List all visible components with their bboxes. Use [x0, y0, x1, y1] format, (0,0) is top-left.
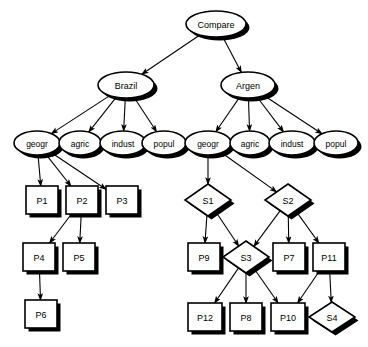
edge-argen-to-geogr_a [216, 97, 240, 131]
node-label-compare: Compare [197, 20, 234, 30]
node-label-P10: P10 [280, 313, 296, 323]
edge-S1-to-S3 [215, 211, 238, 246]
nodes-layer: CompareBrazilArgengeogragricindustpopulg… [14, 11, 358, 332]
node-P3[interactable]: P3 [106, 186, 138, 214]
node-compare[interactable]: Compare [186, 11, 246, 37]
node-S1[interactable]: S1 [185, 184, 231, 216]
node-label-indust_b: indust [112, 139, 135, 149]
edge-S1-to-P9 [205, 215, 207, 243]
node-agric_a[interactable]: agric [230, 131, 270, 155]
node-label-P4: P4 [33, 253, 44, 263]
node-geogr_b[interactable]: geogr [14, 131, 60, 155]
edge-P11-to-P10 [298, 271, 320, 303]
edge-S3-to-P10 [254, 268, 279, 303]
node-label-S3: S3 [240, 253, 251, 263]
edge-argen-to-indust_a [257, 97, 283, 132]
node-label-S4: S4 [326, 313, 337, 323]
node-label-P11: P11 [321, 253, 336, 263]
node-label-brazil: Brazil [115, 81, 138, 91]
edge-geogr_b-to-P1 [38, 155, 41, 186]
node-shadows-layer [18, 15, 362, 336]
node-S3[interactable]: S3 [223, 241, 269, 273]
edge-compare-to-argen [223, 37, 242, 73]
node-S4[interactable]: S4 [309, 302, 355, 332]
edge-geogr_b-to-P2 [46, 154, 71, 186]
node-P1[interactable]: P1 [26, 186, 58, 214]
node-label-argen: Argen [236, 81, 260, 91]
node-label-P3: P3 [116, 196, 127, 206]
node-popul_b[interactable]: popul [142, 131, 186, 155]
node-P9[interactable]: P9 [188, 243, 220, 271]
node-label-popul_a: popul [326, 139, 347, 149]
edge-P2-to-P4 [50, 214, 72, 243]
node-label-agric_a: agric [241, 139, 260, 149]
node-label-S1: S1 [202, 196, 213, 206]
node-label-P6: P6 [35, 310, 46, 320]
node-label-popul_b: popul [154, 139, 175, 149]
edge-compare-to-brazil [142, 35, 200, 74]
node-agric_b[interactable]: agric [59, 131, 101, 155]
edge-argen-to-agric_a [248, 98, 249, 131]
node-P8[interactable]: P8 [230, 303, 262, 331]
node-P2[interactable]: P2 [66, 186, 98, 214]
edge-P11-to-S4 [330, 271, 332, 302]
node-P5[interactable]: P5 [63, 243, 95, 271]
node-label-S2: S2 [282, 196, 293, 206]
edge-brazil-to-indust_b [124, 98, 126, 131]
node-P6[interactable]: P6 [25, 300, 57, 328]
node-P10[interactable]: P10 [271, 303, 305, 331]
edge-S2-to-P11 [296, 211, 319, 243]
node-brazil[interactable]: Brazil [98, 72, 154, 98]
node-label-P8: P8 [240, 313, 251, 323]
edge-geogr_a-to-S2 [222, 153, 277, 192]
edge-brazil-to-geogr_b [51, 96, 109, 134]
node-label-P9: P9 [198, 253, 209, 263]
diagram-svg: CompareBrazilArgengeogragricindustpopulg… [0, 0, 368, 347]
node-label-P2: P2 [76, 196, 87, 206]
edge-S2-to-S3 [254, 211, 280, 247]
node-label-geogr_a: geogr [197, 139, 219, 149]
diagram-canvas: CompareBrazilArgengeogragricindustpopulg… [0, 0, 368, 347]
node-geogr_a[interactable]: geogr [185, 131, 231, 155]
edge-argen-to-popul_a [264, 95, 322, 133]
edge-brazil-to-popul_b [134, 97, 156, 131]
edge-P2-to-P5 [80, 214, 82, 243]
node-P11[interactable]: P11 [313, 243, 345, 271]
node-label-indust_a: indust [281, 139, 304, 149]
node-P4[interactable]: P4 [23, 243, 55, 271]
node-argen[interactable]: Argen [221, 72, 275, 98]
node-label-P5: P5 [73, 253, 84, 263]
edge-P4-to-P6 [39, 271, 40, 300]
node-label-P12: P12 [197, 313, 213, 323]
node-label-P1: P1 [36, 196, 47, 206]
node-label-geogr_b: geogr [26, 139, 48, 149]
node-popul_a[interactable]: popul [314, 131, 358, 155]
node-indust_a[interactable]: indust [269, 131, 315, 155]
node-indust_b[interactable]: indust [100, 131, 146, 155]
node-P12[interactable]: P12 [188, 303, 222, 331]
node-P7[interactable]: P7 [273, 243, 305, 271]
node-label-agric_b: agric [71, 139, 90, 149]
edge-brazil-to-agric_b [89, 97, 117, 132]
node-label-P7: P7 [283, 253, 294, 263]
